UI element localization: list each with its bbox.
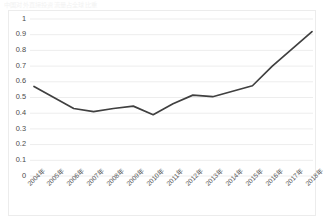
y-axis-tick-label: 0.8	[4, 46, 26, 54]
y-axis-tick-label: 0.6	[4, 77, 26, 85]
y-axis-tick-label: 0.5	[4, 93, 26, 101]
y-axis-tick-label: 0.9	[4, 30, 26, 38]
y-axis-tick-label: 0.7	[4, 62, 26, 70]
y-axis-tick-label: 0.1	[4, 156, 26, 164]
line-chart-svg	[0, 0, 325, 223]
y-axis-tick-label: 0.4	[4, 109, 26, 117]
y-axis-tick-label: 0.3	[4, 125, 26, 133]
gridlines-group	[30, 19, 313, 176]
data-series-line	[34, 32, 312, 115]
chart-figure: 中国对外直接投资流量占全球比重 00.10.20.30.40.50.60.70.…	[0, 0, 325, 223]
y-axis-tick-label: 1	[4, 15, 26, 23]
y-axis-tick-label: 0	[4, 172, 26, 180]
y-axis-tick-label: 0.2	[4, 140, 26, 148]
